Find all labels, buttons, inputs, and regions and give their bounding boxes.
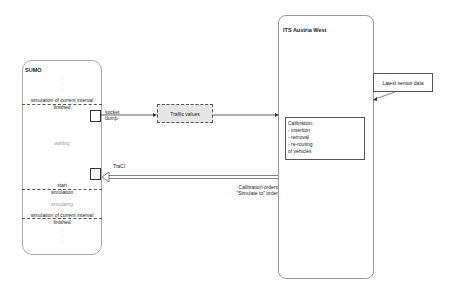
arrowhead-icon	[275, 113, 279, 117]
arrowhead-icon	[373, 97, 377, 101]
connectors	[0, 0, 461, 291]
hollow-arrowhead-icon	[102, 172, 109, 182]
arrowhead-icon	[153, 113, 157, 117]
sensor-to-its-line	[375, 92, 395, 99]
